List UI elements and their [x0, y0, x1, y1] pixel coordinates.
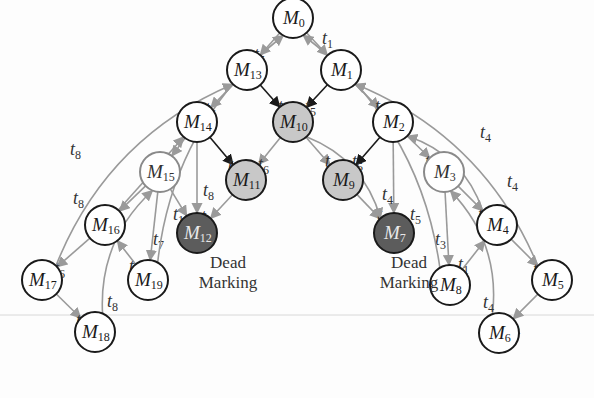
- caption-dead-right: Marking: [380, 273, 439, 292]
- edge-label: t8: [107, 291, 118, 314]
- marking-node-M9: M9: [323, 160, 363, 200]
- marking-node-M0: M0: [273, 0, 313, 38]
- edge-M15-M16: [119, 186, 145, 211]
- marking-node-M7: M7: [374, 213, 414, 253]
- marking-node-M6: M6: [479, 313, 519, 353]
- marking-node-M16: M16: [85, 205, 125, 245]
- edge-label: t1: [322, 28, 333, 51]
- captions-layer: DeadMarkingDeadMarking: [199, 253, 439, 292]
- caption-dead-right: Dead: [391, 253, 427, 272]
- edge-label: t8: [70, 139, 81, 162]
- marking-node-M10: M10: [273, 102, 313, 142]
- marking-node-M17: M17: [22, 260, 62, 300]
- marking-node-M3: M3: [424, 152, 464, 192]
- marking-node-M1: M1: [321, 50, 361, 90]
- marking-node-M11: M11: [226, 160, 266, 200]
- edge-M2-M7: [393, 142, 394, 213]
- edge-label: t4: [507, 171, 518, 194]
- edges-layer: t1t5t2t5t1t6t1t5t2t6t1t5t3t1t4t5t5t1t8t7…: [54, 28, 544, 337]
- marking-node-M19: M19: [128, 260, 168, 300]
- marking-node-M13: M13: [227, 50, 267, 90]
- marking-node-M2: M2: [373, 102, 413, 142]
- edge-label: t4: [480, 122, 491, 145]
- marking-node-M18: M18: [75, 312, 115, 352]
- edge-label: t4: [382, 184, 393, 207]
- reachability-graph: t1t5t2t5t1t6t1t5t2t6t1t5t3t1t4t5t5t1t8t7…: [0, 0, 594, 398]
- edge-M3-M8: [445, 192, 449, 265]
- edge-label: t4: [483, 292, 494, 315]
- marking-node-M14: M14: [177, 102, 217, 142]
- edge-M15-M19: [150, 192, 158, 260]
- marking-node-M5: M5: [532, 260, 572, 300]
- marking-node-M12: M12: [177, 213, 217, 253]
- edge-label: t8: [73, 188, 84, 211]
- caption-dead-left: Marking: [199, 273, 258, 292]
- edge-M13-M10: [260, 85, 279, 107]
- marking-node-M15: M15: [140, 152, 180, 192]
- edge-label: t8: [203, 180, 214, 203]
- marking-node-M4: M4: [477, 205, 517, 245]
- caption-dead-left: Dead: [210, 253, 246, 272]
